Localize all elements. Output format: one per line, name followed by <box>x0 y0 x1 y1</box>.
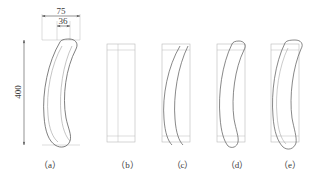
curved-bar-profile-d <box>220 41 246 147</box>
dimension-extension-lines <box>42 14 80 145</box>
caption-e: （e） <box>264 158 316 178</box>
technical-drawing-canvas: 75 36 400 <box>0 0 316 184</box>
dimension-label-36: 36 <box>59 16 69 26</box>
caption-a: （a） <box>0 158 100 178</box>
drawing-sheet: 75 36 400 <box>0 0 316 184</box>
figure-c <box>162 44 190 145</box>
figure-captions-row: （a） （b） （c） （d） （e） <box>0 158 316 178</box>
figure-d <box>217 41 245 147</box>
curved-bar-profile-a <box>44 39 77 147</box>
blank-rectangle-b <box>107 44 135 142</box>
caption-d: （d） <box>210 158 264 178</box>
figure-b <box>107 44 135 142</box>
dimension-line-75: 75 <box>42 6 80 16</box>
dimension-line-400: 400 <box>13 40 24 145</box>
figure-a: 75 36 400 <box>13 6 80 147</box>
dimension-label-75: 75 <box>57 6 67 16</box>
figure-e <box>271 40 302 149</box>
caption-b: （b） <box>100 158 155 178</box>
curved-bar-profile-c <box>164 46 188 145</box>
caption-c: （c） <box>155 158 210 178</box>
curved-bar-profile-e <box>273 40 303 149</box>
dimension-label-400: 400 <box>13 85 23 99</box>
blank-rectangle-e <box>271 44 299 142</box>
dimension-line-36: 36 <box>57 16 70 26</box>
